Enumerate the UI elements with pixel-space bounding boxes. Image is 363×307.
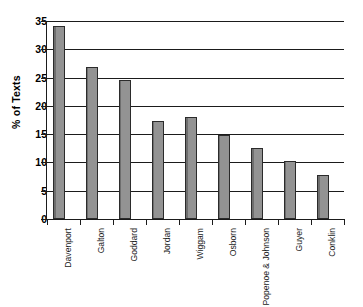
x-tick-mark bbox=[212, 220, 213, 225]
x-tick-mark bbox=[179, 220, 180, 225]
x-tick-mark bbox=[245, 220, 246, 225]
x-tick-mark bbox=[47, 220, 48, 225]
x-tick-label: Wiggam bbox=[195, 228, 205, 260]
x-tick-mark bbox=[113, 220, 114, 225]
x-tick-label: Conklin bbox=[327, 228, 337, 257]
x-tick-mark bbox=[344, 220, 345, 225]
x-axis-ticks: DavenportGaltonGoddardJordanWiggamOsborn… bbox=[0, 0, 363, 307]
x-tick-label: Galton bbox=[96, 228, 106, 253]
x-tick-mark bbox=[278, 220, 279, 225]
x-tick-mark bbox=[311, 220, 312, 225]
x-tick-label: Popenoe & Johnson bbox=[261, 228, 271, 305]
x-tick-label: Davenport bbox=[63, 228, 73, 268]
x-tick-label: Osborn bbox=[228, 228, 238, 256]
x-tick-mark bbox=[80, 220, 81, 225]
x-tick-mark bbox=[146, 220, 147, 225]
x-tick-label: Jordan bbox=[162, 228, 172, 254]
x-tick-label: Guyer bbox=[294, 228, 304, 251]
x-tick-label: Goddard bbox=[129, 228, 139, 261]
bar-chart: % of Texts 05101520253035 DavenportGalto… bbox=[0, 0, 363, 307]
